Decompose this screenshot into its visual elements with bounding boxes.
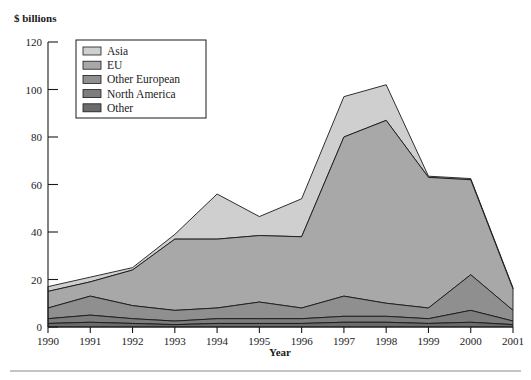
chart-legend: AsiaEUOther EuropeanNorth AmericaOther (76, 40, 206, 118)
area-chart-figure: $ billions 020406080100120 1990199119921… (0, 0, 531, 380)
x-tick-label: 1998 (375, 335, 398, 347)
y-tick-label: 60 (31, 179, 43, 191)
x-tick-label: 2001 (502, 335, 524, 347)
x-tick-label: 1995 (248, 335, 271, 347)
y-tick-label: 0 (37, 321, 43, 333)
x-axis-ticks: 1990199119921993199419951996199719981999… (37, 327, 524, 347)
x-axis-title: Year (269, 346, 291, 358)
y-tick-label: 80 (31, 131, 43, 143)
x-tick-label: 1997 (333, 335, 356, 347)
legend-swatch-other (83, 104, 101, 112)
y-axis-title: $ billions (14, 12, 57, 24)
legend-swatch-asia (83, 47, 101, 55)
legend-swatch-other-european (83, 75, 101, 83)
y-tick-label: 40 (31, 226, 43, 238)
y-tick-label: 20 (31, 274, 43, 286)
legend-label-asia: Asia (107, 45, 128, 57)
legend-label-other: Other (107, 102, 133, 114)
stacked-area-series-group (48, 85, 513, 327)
x-tick-label: 1990 (37, 335, 60, 347)
x-tick-label: 1993 (164, 335, 187, 347)
legend-swatch-eu (83, 61, 101, 69)
y-tick-label: 120 (26, 36, 43, 48)
x-tick-label: 1991 (79, 335, 101, 347)
legend-label-north-america: North America (107, 88, 176, 100)
legend-swatch-north-america (83, 90, 101, 98)
legend-label-other-european: Other European (107, 73, 180, 86)
y-tick-label: 100 (26, 84, 43, 96)
x-tick-label: 1999 (417, 335, 440, 347)
x-tick-label: 2000 (460, 335, 483, 347)
x-tick-label: 1992 (122, 335, 144, 347)
x-tick-label: 1994 (206, 335, 229, 347)
legend-label-eu: EU (107, 59, 123, 71)
x-tick-label: 1996 (291, 335, 314, 347)
